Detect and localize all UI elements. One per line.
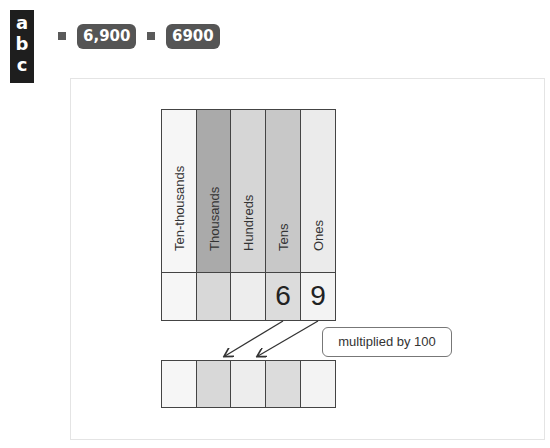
multiplied-callout: multiplied by 100 (322, 327, 452, 357)
arrow-ones-to-hundreds (258, 321, 318, 356)
shift-arrows (0, 0, 550, 448)
arrow-tens-to-thousands (225, 321, 283, 356)
